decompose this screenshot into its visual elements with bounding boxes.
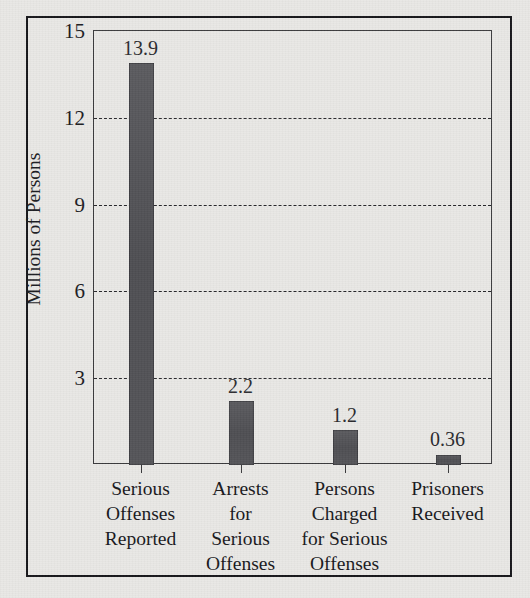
y-tick-label-3: 3 <box>45 368 85 389</box>
bar-serious-offenses-reported <box>129 63 154 465</box>
value-label-serious-offenses-reported: 13.9 <box>101 38 181 58</box>
x-tick-mark-4 <box>448 464 449 473</box>
x-tick-mark-2 <box>241 464 242 473</box>
bar-chart: 15 12 9 6 3 Millions of Persons 13.9 2.2… <box>0 0 530 598</box>
x-axis-label-prisoners-received: Prisoners Received <box>383 477 513 527</box>
plot-area <box>93 30 492 464</box>
x-tick-mark-3 <box>345 464 346 473</box>
x-label-line: for Serious <box>275 527 415 552</box>
x-label-line: Received <box>383 502 513 527</box>
x-label-line: Prisoners <box>383 477 513 502</box>
x-tick-mark-1 <box>141 464 142 473</box>
bar-arrests-for-serious-offenses <box>229 401 254 465</box>
value-label-prisoners-received: 0.36 <box>408 429 488 449</box>
y-tick-label-15: 15 <box>45 21 85 42</box>
x-label-line: Offenses <box>275 552 415 577</box>
bar-prisoners-received <box>436 455 461 465</box>
value-label-arrests-for-serious-offenses: 2.2 <box>201 376 281 396</box>
y-tick-label-9: 9 <box>45 195 85 216</box>
y-tick-label-6: 6 <box>45 281 85 302</box>
bar-persons-charged-for-serious-offenses <box>333 430 358 465</box>
value-label-persons-charged-for-serious-offenses: 1.2 <box>305 405 385 425</box>
y-tick-label-12: 12 <box>45 108 85 129</box>
y-axis-title: Millions of Persons <box>23 129 45 329</box>
